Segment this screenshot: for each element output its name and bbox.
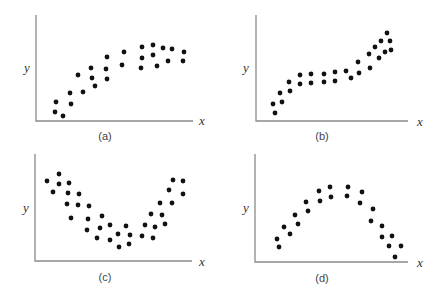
data-point: [388, 39, 393, 44]
data-point: [122, 50, 127, 55]
data-points: [275, 185, 404, 260]
panel-label: (d): [315, 272, 328, 284]
data-point: [124, 224, 129, 229]
scatter-figure: x y (a) x y (b) x y (c) x y (d): [0, 0, 435, 297]
y-axis-label: y: [22, 60, 30, 75]
data-point: [100, 214, 105, 219]
data-point: [309, 81, 314, 86]
data-point: [95, 236, 100, 241]
data-point: [140, 234, 145, 239]
data-point: [298, 73, 303, 78]
data-point: [399, 244, 404, 249]
data-point: [329, 195, 334, 200]
data-point: [349, 76, 354, 81]
data-point: [360, 190, 365, 195]
data-point: [81, 90, 86, 95]
data-point: [69, 102, 74, 107]
x-axis-label: x: [198, 254, 205, 269]
data-point: [167, 188, 172, 193]
data-point: [51, 190, 56, 195]
data-point: [98, 226, 103, 231]
data-point: [333, 79, 338, 84]
data-point: [57, 172, 62, 177]
data-point: [90, 76, 95, 81]
data-point: [76, 73, 81, 78]
data-point: [380, 235, 385, 240]
data-point: [77, 192, 82, 197]
y-axis-label: y: [21, 200, 29, 215]
data-point: [151, 53, 156, 58]
data-point: [298, 82, 303, 87]
data-point: [66, 191, 71, 196]
data-point: [87, 204, 92, 209]
data-point: [67, 181, 72, 186]
data-point: [140, 45, 145, 50]
data-point: [387, 244, 392, 249]
data-point: [89, 66, 94, 71]
data-point: [345, 194, 350, 199]
panel-label: (c): [99, 271, 112, 283]
data-point: [318, 199, 323, 204]
data-point: [383, 50, 388, 55]
data-point: [317, 189, 322, 194]
data-point: [57, 182, 62, 187]
data-point: [155, 64, 160, 69]
panel-a: x y (a): [22, 15, 205, 142]
data-point: [182, 50, 187, 55]
panel-d: x y (d): [241, 154, 423, 284]
data-points: [45, 172, 186, 250]
data-point: [280, 100, 285, 105]
data-point: [288, 232, 293, 237]
data-point: [181, 179, 186, 184]
data-point: [393, 255, 398, 260]
data-point: [53, 110, 58, 115]
data-point: [288, 89, 293, 94]
data-point: [76, 203, 81, 208]
data-point: [170, 47, 175, 52]
panel-label: (a): [98, 130, 111, 142]
data-point: [105, 55, 110, 60]
data-point: [390, 234, 395, 239]
data-point: [296, 222, 301, 227]
data-point: [181, 192, 186, 197]
data-point: [371, 207, 376, 212]
data-point: [322, 72, 327, 77]
data-point: [120, 63, 125, 68]
panel-c: x y (c): [21, 154, 205, 283]
y-axis-label: y: [241, 60, 249, 75]
data-point: [380, 224, 385, 229]
panel-label: (b): [315, 130, 328, 142]
data-point: [128, 233, 133, 238]
data-point: [358, 201, 363, 206]
data-point: [282, 225, 287, 230]
data-point: [368, 66, 373, 71]
data-point: [108, 223, 113, 228]
data-point: [356, 60, 361, 65]
data-point: [273, 111, 278, 116]
data-point: [322, 80, 327, 85]
data-point: [304, 200, 309, 205]
data-point: [309, 72, 314, 77]
data-point: [149, 212, 154, 217]
data-point: [140, 56, 145, 61]
data-point: [379, 39, 384, 44]
data-point: [116, 232, 121, 237]
data-point: [389, 48, 394, 53]
data-point: [287, 80, 292, 85]
data-point: [278, 91, 283, 96]
data-point: [373, 45, 378, 50]
data-point: [163, 222, 168, 227]
axes: [256, 15, 408, 121]
data-point: [346, 185, 351, 190]
data-point: [61, 114, 66, 119]
data-point: [65, 202, 70, 207]
data-point: [333, 70, 338, 75]
data-point: [117, 245, 122, 250]
panel-b: x y (b): [241, 15, 423, 142]
data-point: [45, 179, 50, 184]
data-point: [139, 66, 144, 71]
axes: [36, 15, 193, 121]
data-point: [275, 237, 280, 242]
data-point: [306, 209, 311, 214]
data-point: [328, 185, 333, 190]
